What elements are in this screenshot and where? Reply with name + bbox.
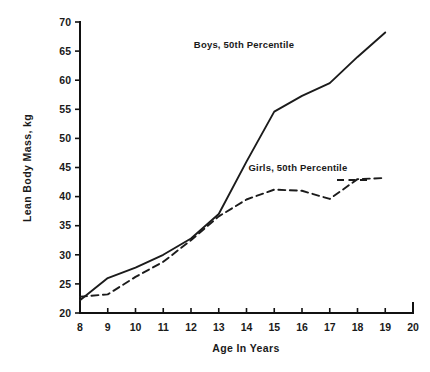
x-tick-label: 18 bbox=[352, 321, 364, 333]
girls-series-label: Girls, 50th Percentile bbox=[249, 162, 348, 173]
y-tick-label: 55 bbox=[59, 103, 71, 115]
x-tick-label: 14 bbox=[241, 321, 253, 333]
x-tick-label: 17 bbox=[324, 321, 336, 333]
y-tick-label: 70 bbox=[59, 16, 71, 28]
x-tick-label: 10 bbox=[130, 321, 142, 333]
x-axis bbox=[80, 303, 413, 313]
x-tick-label: 20 bbox=[407, 321, 419, 333]
y-tick-labels: 2025303540455055606570 bbox=[59, 16, 71, 319]
y-tick-label: 60 bbox=[59, 74, 71, 86]
y-axis bbox=[75, 22, 80, 313]
y-tick-label: 40 bbox=[59, 190, 71, 202]
y-tick-label: 50 bbox=[59, 132, 71, 144]
y-tick-label: 45 bbox=[59, 161, 71, 173]
lean-body-mass-line-chart: 2025303540455055606570 89101112131415161… bbox=[0, 0, 430, 372]
x-tick-label: 9 bbox=[105, 321, 111, 333]
boys-series-label: Boys, 50th Percentile bbox=[194, 39, 294, 50]
x-tick-labels: 891011121314151617181920 bbox=[77, 321, 419, 333]
chart-figure: 2025303540455055606570 89101112131415161… bbox=[0, 0, 430, 372]
x-tick-label: 12 bbox=[185, 321, 197, 333]
y-tick-label: 65 bbox=[59, 45, 71, 57]
y-tick-label: 35 bbox=[59, 219, 71, 231]
girls-line bbox=[80, 178, 385, 297]
x-tick-label: 13 bbox=[213, 321, 225, 333]
y-tick-label: 25 bbox=[59, 278, 71, 290]
x-tick-label: 19 bbox=[379, 321, 391, 333]
x-tick-label: 11 bbox=[158, 321, 169, 333]
y-tick-label: 30 bbox=[59, 249, 71, 261]
x-axis-title: Age In Years bbox=[212, 342, 280, 354]
x-tick-label: 16 bbox=[296, 321, 308, 333]
x-tick-label: 8 bbox=[77, 321, 83, 333]
x-tick-label: 15 bbox=[268, 321, 280, 333]
y-tick-label: 20 bbox=[59, 307, 71, 319]
y-axis-title: Lean Body Mass, kg bbox=[21, 114, 33, 222]
